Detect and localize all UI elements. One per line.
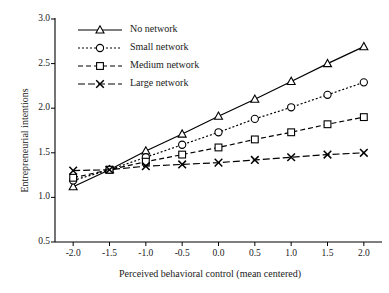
data-point-triangle [142,147,150,154]
data-point-triangle [215,112,223,119]
series-medium-network [70,114,367,181]
chart-figure: Entrepreneurial intentions Perceived beh… [0,0,389,293]
data-point-circle [96,44,103,51]
x-tick-label: 0.5 [240,248,270,258]
data-point-circle [215,129,222,136]
data-point-square [324,121,331,128]
data-point-circle [179,141,186,148]
x-tick-label: -1.0 [131,248,161,258]
data-point-square [179,151,186,158]
data-point-square [70,174,77,181]
data-point-triangle [287,77,295,84]
data-point-triangle [324,59,332,66]
data-point-square [251,136,258,143]
data-point-circle [360,79,367,86]
x-tick-label: 1.0 [276,248,306,258]
x-tick-label: -2.0 [58,248,88,258]
legend-label-square: Medium network [130,59,199,70]
x-axis-title: Perceived behavioral control (mean cente… [55,268,365,279]
x-tick-label: -0.5 [167,248,197,258]
y-axis-title: Entrepreneurial intentions [19,51,30,231]
data-point-triangle [251,95,259,102]
data-point-circle [324,91,331,98]
legend-entry-0 [78,26,122,33]
legend-label-circle: Small network [130,41,189,52]
x-tick-label: 2.0 [349,248,379,258]
legend-label-triangle: No network [130,23,178,34]
y-tick-label: 1.5 [20,147,50,157]
x-tick-label: -1.5 [95,248,125,258]
data-point-circle [251,115,258,122]
data-point-triangle [360,42,368,49]
legend-label-cross: Large network [130,77,188,88]
x-tick-label: 0.0 [204,248,234,258]
data-point-cross [360,149,368,157]
data-point-square [97,63,104,70]
series-no-network [69,42,368,189]
data-point-square [360,114,367,121]
y-tick-label: 0.5 [20,236,50,246]
legend-entry-2 [78,63,122,70]
legend-entry-1 [78,44,122,51]
series-large-network [69,149,367,174]
y-tick-label: 2.0 [20,102,50,112]
legend-entry-3 [78,80,122,88]
y-tick-label: 1.0 [20,191,50,201]
y-tick-label: 3.0 [20,13,50,23]
data-point-triangle [178,130,186,137]
y-tick-label: 2.5 [20,58,50,68]
data-point-circle [288,104,295,111]
data-point-square [288,129,295,136]
data-point-square [215,144,222,151]
x-tick-label: 1.5 [313,248,343,258]
